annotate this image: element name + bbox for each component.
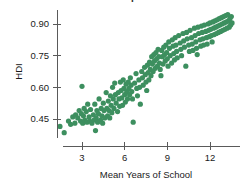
data-point <box>133 71 138 76</box>
x-tick-label: 9 <box>165 152 170 163</box>
x-tick-label: 3 <box>79 152 84 163</box>
data-point <box>130 96 135 101</box>
data-point <box>62 130 67 135</box>
data-point <box>131 120 136 125</box>
data-point <box>88 107 93 112</box>
data-point <box>229 14 234 19</box>
data-point <box>183 64 188 69</box>
data-point <box>106 98 111 103</box>
data-point <box>100 121 105 126</box>
data-point <box>129 89 134 94</box>
data-point <box>138 102 143 107</box>
scatter-plot-canvas: 0.450.600.750.9036912Mean Years of Schoo… <box>0 0 246 187</box>
data-point <box>135 93 140 98</box>
data-point <box>205 41 210 46</box>
data-point <box>158 67 163 72</box>
y-axis-title: HDI <box>13 63 24 79</box>
data-point <box>128 75 133 80</box>
data-point <box>85 102 90 107</box>
y-tick-label: 0.60 <box>31 82 50 93</box>
data-point <box>104 90 109 95</box>
data-point <box>195 52 200 57</box>
data-point <box>72 121 77 126</box>
data-point <box>57 124 62 129</box>
data-points-layer <box>57 12 234 135</box>
data-point <box>96 96 101 101</box>
y-tick-label: 0.75 <box>31 50 50 61</box>
data-point <box>92 102 97 107</box>
data-point <box>112 81 117 86</box>
data-point <box>132 81 137 86</box>
data-point <box>144 88 149 93</box>
data-point <box>107 115 112 120</box>
data-point <box>210 39 215 44</box>
data-point <box>121 77 126 82</box>
x-axis-title: Mean Years of School <box>100 169 192 180</box>
data-point <box>79 84 84 89</box>
x-tick-label: 6 <box>122 152 127 163</box>
scatterplot-figure: Scatterplot 0.450.600.750.9036912Mean Ye… <box>0 0 246 187</box>
x-tick-label: 12 <box>205 152 216 163</box>
y-tick-label: 0.90 <box>31 18 50 29</box>
data-point <box>158 73 163 78</box>
data-point <box>179 53 184 58</box>
y-tick-label: 0.45 <box>31 113 50 124</box>
data-point <box>115 109 120 114</box>
data-point <box>93 128 98 133</box>
data-point <box>101 101 106 106</box>
data-point <box>229 20 234 25</box>
